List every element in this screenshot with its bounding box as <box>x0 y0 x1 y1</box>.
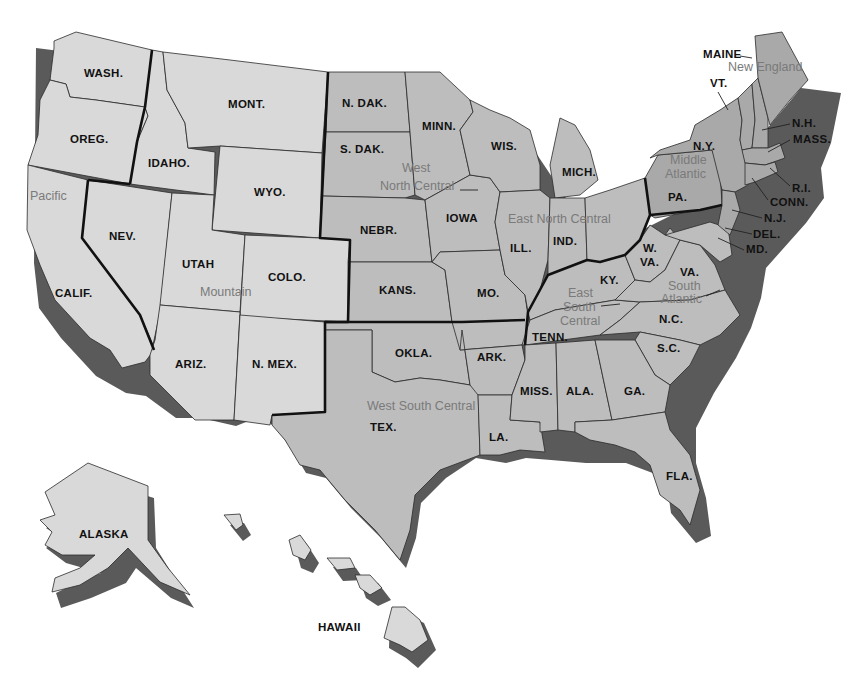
region-label-east-south-central-1: East <box>568 286 594 300</box>
region-label-east-south-central-2: South <box>563 300 596 314</box>
state-label: PA. <box>668 191 687 203</box>
state-label: IDAHO. <box>148 157 190 169</box>
state-label: KY. <box>600 274 619 286</box>
state-michigan[interactable] <box>550 118 598 198</box>
state-label: ALASKA <box>79 528 129 540</box>
state-label: TEX. <box>370 421 397 433</box>
state-label: TENN. <box>532 331 568 343</box>
state-label: NEV. <box>109 230 136 242</box>
state-label: MICH. <box>562 166 596 178</box>
state-label: IOWA <box>446 212 478 224</box>
state-label: VA. <box>680 266 699 278</box>
state-label: N.Y. <box>693 140 715 152</box>
region-label-east-north-central: East North Central <box>508 212 611 226</box>
state-label: VA. <box>640 256 659 268</box>
region-label-mountain: Mountain <box>200 285 251 299</box>
hawaii-island-oahu[interactable] <box>289 535 311 560</box>
state-label: GA. <box>624 385 645 397</box>
state-label: FLA. <box>666 470 693 482</box>
state-label: MO. <box>477 287 500 299</box>
state-label: MISS. <box>520 385 553 397</box>
state-label: CALIF. <box>55 287 93 299</box>
state-label: MONT. <box>228 98 265 110</box>
state-label: ARIZ. <box>175 358 207 370</box>
state-label: KANS. <box>379 284 416 296</box>
state-label: OKLA. <box>395 347 432 359</box>
state-label: WASH. <box>84 67 123 79</box>
state-label: N. MEX. <box>252 358 297 370</box>
region-label-west-north-central-1: West <box>402 161 431 175</box>
us-census-regions-map: Pacific Mountain West North Central East… <box>0 0 858 688</box>
region-label-new-england: New England <box>728 60 802 74</box>
state-label: IND. <box>553 235 577 247</box>
region-label-south-atlantic-2: Atlantic <box>661 292 702 306</box>
region-label-pacific: Pacific <box>30 189 67 203</box>
state-label: LA. <box>489 431 508 443</box>
hawaii-island-molokai[interactable] <box>327 558 355 570</box>
state-label: CONN. <box>770 196 809 208</box>
state-label: NEBR. <box>360 224 397 236</box>
state-label: N.H. <box>792 117 816 129</box>
state-label: ALA. <box>566 385 594 397</box>
state-label: COLO. <box>268 271 306 283</box>
region-label-west-north-central-2: North Central <box>380 179 454 193</box>
state-label: S.C. <box>657 342 681 354</box>
state-label: N. DAK. <box>342 97 387 109</box>
state-label: N.J. <box>764 212 786 224</box>
state-label: W. <box>643 242 657 254</box>
state-label: R.I. <box>792 182 811 194</box>
state-label: WYO. <box>254 186 286 198</box>
state-label: ARK. <box>477 351 506 363</box>
region-label-middle-atlantic-1: Middle <box>670 153 707 167</box>
state-label: MINN. <box>422 120 456 132</box>
state-label: MASS. <box>793 133 831 145</box>
state-label: ILL. <box>510 242 532 254</box>
state-label: MD. <box>746 243 768 255</box>
region-label-west-south-central: West South Central <box>367 399 475 413</box>
state-label: WIS. <box>491 140 517 152</box>
region-label-south-atlantic-1: South <box>668 279 701 293</box>
state-label: VT. <box>710 77 728 89</box>
state-label: S. DAK. <box>340 143 384 155</box>
state-label: DEL. <box>753 228 780 240</box>
state-new-mexico[interactable] <box>234 315 325 425</box>
state-label: HAWAII <box>318 621 361 633</box>
state-label: N.C. <box>659 313 683 325</box>
state-label: UTAH <box>182 258 214 270</box>
state-label: MAINE <box>703 48 742 60</box>
region-label-middle-atlantic-2: Atlantic <box>665 167 706 181</box>
region-label-east-south-central-3: Central <box>560 314 600 328</box>
state-label: OREG. <box>70 133 109 145</box>
